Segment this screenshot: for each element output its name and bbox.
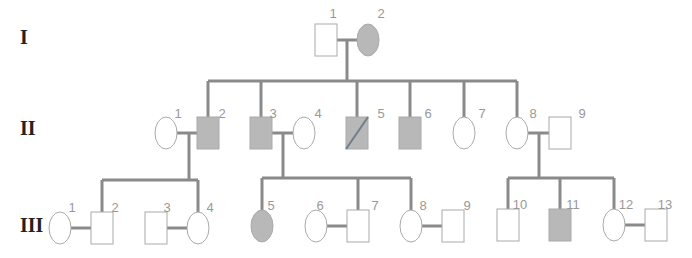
individual-number: 2 — [377, 6, 384, 21]
male-square-icon — [549, 209, 571, 241]
individual-II-8: 8 — [506, 106, 537, 149]
female-circle-icon — [293, 117, 315, 149]
individual-number: 13 — [658, 197, 672, 212]
individual-I-2: 2 — [357, 6, 385, 56]
female-circle-icon — [305, 210, 327, 242]
individual-number: 4 — [314, 106, 321, 121]
male-square-icon — [91, 212, 113, 244]
individuals: 1212345678912345678910111213 — [49, 6, 672, 244]
female-circle-icon — [155, 117, 177, 149]
individual-number: 3 — [269, 106, 276, 121]
pedigree-canvas: 1212345678912345678910111213 IIIIII — [0, 0, 692, 258]
individual-number: 2 — [111, 200, 118, 215]
pedigree-diagram: 1212345678912345678910111213 IIIIII — [0, 0, 692, 258]
female-circle-icon — [506, 117, 528, 149]
individual-number: 5 — [267, 198, 274, 213]
female-circle-icon — [453, 117, 475, 149]
individual-III-4: 4 — [187, 200, 214, 244]
male-square-icon — [347, 210, 369, 242]
individual-number: 7 — [478, 106, 485, 121]
individual-III-7: 7 — [347, 198, 379, 242]
individual-number: 5 — [377, 106, 384, 121]
individual-number: 8 — [419, 198, 426, 213]
individual-III-8: 8 — [400, 198, 427, 242]
individual-III-13: 13 — [645, 197, 672, 241]
individual-number: 4 — [206, 200, 213, 215]
individual-II-1: 1 — [155, 106, 182, 149]
female-circle-icon — [251, 210, 273, 242]
individual-III-9: 9 — [442, 198, 471, 242]
male-square-icon — [197, 117, 219, 149]
female-circle-icon — [357, 24, 379, 56]
male-square-icon — [250, 117, 272, 149]
individual-II-9: 9 — [549, 106, 586, 149]
generation-label: II — [20, 117, 36, 139]
generation-label: I — [20, 26, 28, 48]
individual-II-5: 5 — [346, 106, 385, 149]
individual-III-11: 11 — [549, 197, 580, 241]
female-circle-icon — [187, 212, 209, 244]
male-square-icon — [549, 117, 571, 149]
male-square-icon — [442, 210, 464, 242]
male-square-icon — [497, 209, 519, 241]
individual-number: 8 — [529, 106, 536, 121]
individual-number: 1 — [329, 6, 336, 21]
individual-II-3: 3 — [250, 106, 277, 149]
generation-labels: IIIIII — [20, 26, 44, 236]
individual-II-2: 2 — [197, 106, 226, 149]
male-square-icon — [645, 209, 667, 241]
individual-number: 2 — [218, 106, 225, 121]
individual-I-1: 1 — [315, 6, 337, 56]
female-circle-icon — [49, 212, 71, 244]
individual-II-7: 7 — [453, 106, 486, 149]
individual-II-4: 4 — [293, 106, 322, 149]
individual-II-6: 6 — [399, 106, 432, 149]
individual-number: 1 — [174, 106, 181, 121]
individual-number: 11 — [566, 197, 580, 212]
female-circle-icon — [400, 210, 422, 242]
individual-number: 1 — [68, 200, 75, 215]
individual-number: 7 — [371, 198, 378, 213]
individual-number: 6 — [424, 106, 431, 121]
individual-number: 9 — [578, 106, 585, 121]
individual-III-1: 1 — [49, 200, 76, 244]
individual-number: 3 — [163, 200, 170, 215]
individual-III-12: 12 — [603, 197, 633, 241]
individual-III-2: 2 — [91, 200, 119, 244]
individual-number: 10 — [513, 197, 527, 212]
female-circle-icon — [603, 209, 625, 241]
male-square-icon — [145, 212, 167, 244]
individual-number: 12 — [619, 197, 633, 212]
generation-label: III — [20, 214, 44, 236]
individual-number: 9 — [463, 198, 470, 213]
individual-III-6: 6 — [305, 198, 327, 242]
individual-III-10: 10 — [497, 197, 527, 241]
male-square-icon — [399, 117, 421, 149]
individual-number: 6 — [316, 198, 323, 213]
male-square-icon — [315, 24, 337, 56]
individual-III-3: 3 — [145, 200, 171, 244]
